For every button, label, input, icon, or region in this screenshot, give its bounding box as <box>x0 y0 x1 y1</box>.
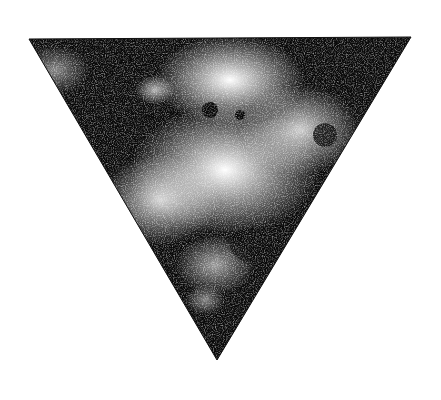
inverted-triangle-graphic <box>0 0 441 400</box>
artwork-canvas <box>0 0 441 400</box>
